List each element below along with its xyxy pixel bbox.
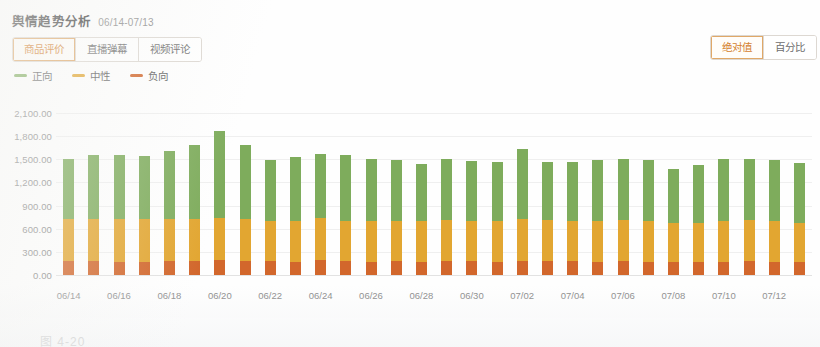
bar-segment-positive [618, 159, 629, 220]
bar-stack[interactable] [189, 145, 200, 275]
y-axis-tick-label: 1,800.00 [14, 131, 52, 142]
bar-segment-neutral [265, 221, 276, 261]
bar-stack[interactable] [214, 131, 225, 275]
legend-label-neutral: 中性 [90, 68, 110, 83]
bar-segment-positive [693, 165, 704, 222]
bar-stack[interactable] [114, 155, 125, 275]
bar-segment-positive [567, 162, 578, 221]
bar-segment-neutral [139, 219, 150, 261]
bar-segment-neutral [315, 218, 326, 260]
bar-segment-positive [441, 159, 452, 220]
bar-segment-positive [517, 149, 528, 218]
bar-stack[interactable] [441, 159, 452, 275]
bar-segment-positive [164, 151, 175, 219]
bar-stack[interactable] [391, 160, 402, 275]
y-axis-tick-label: 900.00 [22, 200, 52, 211]
bar-segment-negative [466, 261, 477, 275]
figure-caption: 图 4-20 [40, 332, 85, 347]
value-mode-tab-group[interactable]: 绝对值 百分比 [710, 35, 817, 60]
bar-segment-neutral [340, 221, 351, 261]
bar-segment-positive [668, 169, 679, 223]
legend-item-negative[interactable]: 负向 [130, 68, 168, 83]
legend-swatch-negative-icon [130, 74, 143, 77]
bar-segment-neutral [164, 219, 175, 261]
bar-stack[interactable] [643, 160, 654, 275]
bar-segment-neutral [592, 221, 603, 261]
bar-segment-positive [340, 155, 351, 221]
bar-segment-positive [542, 162, 553, 221]
bar-stack[interactable] [164, 151, 175, 275]
legend-item-positive[interactable]: 正向 [14, 68, 52, 83]
bar-segment-neutral [88, 219, 99, 261]
bar-stack[interactable] [63, 159, 74, 275]
tab-product-review[interactable]: 商品评价 [13, 38, 76, 61]
tab-percentage[interactable]: 百分比 [764, 36, 816, 59]
x-axis-tick-label: 06/18 [158, 290, 182, 301]
bar-segment-neutral [466, 221, 477, 261]
bar-segment-neutral [441, 220, 452, 261]
bar-segment-negative [693, 262, 704, 275]
bar-stack[interactable] [139, 156, 150, 275]
bar-segment-negative [794, 262, 805, 275]
bar-segment-negative [718, 262, 729, 276]
legend-item-neutral[interactable]: 中性 [72, 68, 110, 83]
y-axis: 0.00300.00600.00900.001,200.001,500.001,… [0, 100, 56, 278]
x-axis-tick-label: 06/28 [410, 290, 434, 301]
bar-stack[interactable] [290, 157, 301, 275]
tab-video-comment[interactable]: 视频评论 [139, 38, 201, 61]
bar-segment-negative [265, 261, 276, 275]
bar-stack[interactable] [416, 164, 427, 275]
bar-segment-negative [744, 261, 755, 275]
bar-segment-positive [718, 159, 729, 221]
bar-stack[interactable] [240, 145, 251, 275]
bar-series-container [56, 100, 812, 288]
bar-segment-positive [63, 159, 74, 218]
bar-segment-neutral [189, 219, 200, 261]
bar-stack[interactable] [668, 169, 679, 275]
bar-segment-neutral [744, 220, 755, 261]
x-axis-tick-label: 06/30 [460, 290, 484, 301]
bar-stack[interactable] [340, 155, 351, 275]
bar-segment-positive [366, 159, 377, 221]
bar-stack[interactable] [492, 162, 503, 275]
bar-segment-negative [769, 262, 780, 276]
bar-stack[interactable] [542, 162, 553, 275]
bar-stack[interactable] [718, 159, 729, 275]
bar-segment-positive [769, 160, 780, 221]
bar-stack[interactable] [88, 155, 99, 275]
tab-live-danmaku[interactable]: 直播弹幕 [76, 38, 139, 61]
bar-stack[interactable] [466, 161, 477, 275]
chart-plot-area: 0.00300.00600.00900.001,200.001,500.001,… [0, 100, 820, 315]
bar-segment-negative [567, 261, 578, 275]
legend-swatch-neutral-icon [72, 74, 85, 77]
y-axis-tick-label: 0.00 [33, 270, 52, 281]
bar-stack[interactable] [693, 165, 704, 275]
tab-absolute-value[interactable]: 绝对值 [711, 36, 764, 59]
bar-segment-neutral [240, 219, 251, 261]
bar-stack[interactable] [769, 160, 780, 275]
bar-stack[interactable] [618, 159, 629, 275]
source-tab-group[interactable]: 商品评价 直播弹幕 视频评论 [12, 37, 202, 62]
bar-segment-neutral [416, 221, 427, 261]
bar-stack[interactable] [517, 149, 528, 275]
x-axis-tick-label: 06/16 [107, 290, 131, 301]
y-axis-tick-label: 2,100.00 [14, 108, 52, 119]
bar-stack[interactable] [744, 159, 755, 275]
bar-stack[interactable] [567, 162, 578, 275]
bar-segment-negative [139, 262, 150, 276]
x-axis-tick-label: 07/04 [561, 290, 585, 301]
bar-segment-positive [794, 163, 805, 222]
bar-stack[interactable] [315, 154, 326, 275]
bar-segment-negative [340, 261, 351, 275]
bar-stack[interactable] [592, 160, 603, 275]
x-axis-tick-label: 07/06 [611, 290, 635, 301]
bar-stack[interactable] [794, 163, 805, 275]
bar-segment-neutral [63, 219, 74, 261]
x-axis-tick-label: 07/12 [762, 290, 786, 301]
bar-segment-positive [290, 157, 301, 221]
bar-stack[interactable] [265, 160, 276, 275]
bar-segment-neutral [668, 223, 679, 262]
bar-stack[interactable] [366, 159, 377, 275]
x-axis-tick-label: 07/08 [662, 290, 686, 301]
page-title: 舆情趋势分析 [12, 11, 91, 30]
